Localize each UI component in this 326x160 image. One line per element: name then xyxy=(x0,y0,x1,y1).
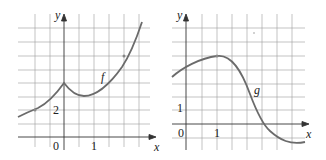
right-axes xyxy=(172,14,309,150)
left-axes xyxy=(18,14,156,150)
left-x-axis-label: x xyxy=(154,141,159,153)
right-x-tick-label: 1 xyxy=(214,127,220,139)
function-f-label: f xyxy=(101,71,104,83)
left-grid xyxy=(18,14,150,147)
left-y-axis-label: y xyxy=(55,9,60,21)
curve-f xyxy=(18,22,142,117)
right-y-axis-label: y xyxy=(177,9,182,21)
right-y-tick-label: 1 xyxy=(177,102,183,114)
right-grid xyxy=(172,14,305,150)
curve-g xyxy=(172,56,305,143)
right-x-axis-label: x xyxy=(306,128,311,140)
right-origin-label: 0 xyxy=(178,127,184,139)
function-g-label: g xyxy=(254,84,260,96)
left-x-tick-label: 1 xyxy=(91,140,97,152)
left-origin-label: 0 xyxy=(53,140,59,152)
left-y-tick-label: 2 xyxy=(53,104,59,116)
graphs-canvas xyxy=(0,0,326,160)
